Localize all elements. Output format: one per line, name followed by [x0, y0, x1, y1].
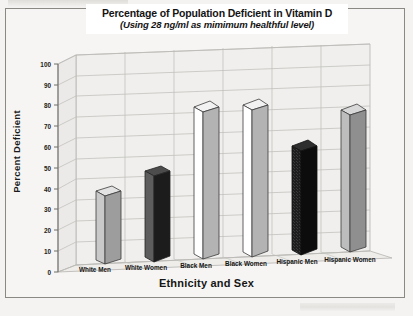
y-axis-ticks [54, 64, 58, 272]
y-tick-label: 60 [44, 144, 52, 151]
bar-column[interactable] [292, 140, 317, 255]
y-tick-label: 40 [44, 186, 52, 193]
x-axis-title: Ethnicity and Sex [0, 277, 413, 289]
y-tick-label: 50 [44, 165, 52, 172]
scanned-page: 100 90 80 70 60 50 40 30 20 10 0 [0, 0, 413, 316]
category-label: Black Women [225, 260, 267, 267]
y-axis-tick-labels: 100 90 80 70 60 50 40 30 20 10 0 [40, 61, 51, 276]
bar-column[interactable] [96, 186, 121, 264]
category-label: White Men [79, 266, 111, 273]
category-label: Hispanic Women [324, 256, 375, 264]
y-tick-label: 0 [47, 269, 51, 276]
bar-column[interactable] [243, 99, 268, 257]
y-tick-label: 80 [44, 102, 52, 109]
y-tick-label: 30 [44, 206, 52, 213]
y-tick-label: 10 [44, 248, 52, 255]
category-label: White Women [125, 264, 167, 271]
y-tick-label: 90 [44, 82, 52, 89]
y-tick-label: 100 [40, 61, 51, 68]
category-label: Hispanic Men [276, 258, 317, 266]
page-title: Percentage of Population Deficient in Vi… [88, 7, 346, 19]
bar-column[interactable] [341, 104, 366, 252]
bar-column[interactable] [194, 101, 219, 259]
y-tick-label: 20 [44, 227, 52, 234]
bar-column[interactable] [145, 166, 170, 262]
chart-subtitle: (Using 28 ng/ml as mimimum healthful lev… [88, 19, 346, 30]
y-tick-label: 70 [44, 123, 52, 130]
chart-title-box: Percentage of Population Deficient in Vi… [86, 4, 348, 34]
y-axis-title: Percent Deficient [11, 92, 22, 212]
bar-chart-plot: 100 90 80 70 60 50 40 30 20 10 0 [0, 0, 413, 316]
category-label: Black Men [180, 262, 212, 269]
